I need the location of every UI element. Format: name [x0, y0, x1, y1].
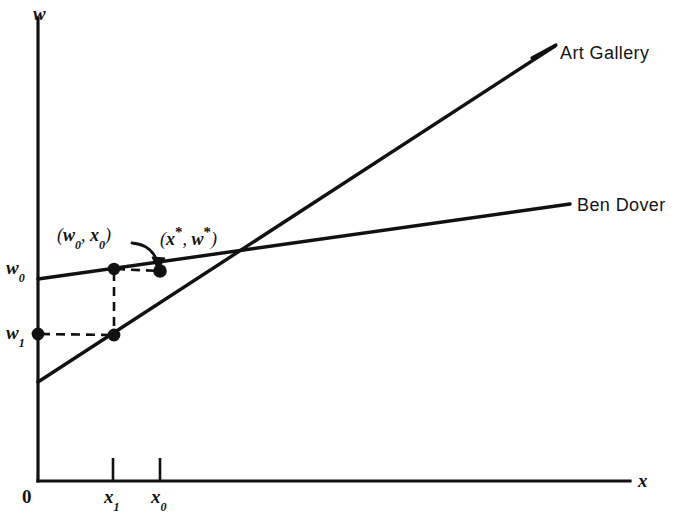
annotation-point-w0-x0: (w0, x0) — [57, 226, 111, 248]
x-axis-label: x — [638, 471, 648, 490]
dashed-guide-w1-horizontal — [41, 334, 112, 335]
y-tick-label-w1-sub: 1 — [19, 336, 25, 350]
x-tick-label-x0-sub: 0 — [161, 500, 167, 514]
annotation-b-star2: * — [204, 224, 212, 240]
chart-svg — [0, 0, 678, 528]
x-tick-label-x0: x0 — [151, 487, 167, 510]
y-tick-label-w0-sub: 0 — [19, 271, 25, 285]
annotation-a-sep: , — [81, 225, 90, 245]
point-dot-w1-axis — [32, 328, 45, 341]
paren-close-a: ) — [105, 225, 111, 245]
y-axis-label: w — [33, 4, 46, 23]
annotation-a-sub2: 0 — [99, 238, 105, 252]
annotation-point-xstar-wstar: (x*, w*) — [160, 226, 217, 248]
x-tick-label-x1: x1 — [104, 487, 120, 510]
figure-canvas: w x 0 w0 w1 x1 x0 (w0, x0) (x*, w*) Art … — [0, 0, 678, 528]
origin-label: 0 — [22, 487, 32, 506]
point-dot-xstar-wstar — [153, 264, 167, 278]
curve-label-ben-dover: Ben Dover — [577, 196, 666, 214]
paren-close-b: ) — [211, 229, 217, 249]
y-tick-label-w0-var: w — [6, 257, 19, 278]
annotation-b-star1: * — [175, 224, 183, 240]
x-tick-label-x0-var: x — [151, 486, 161, 507]
x-tick-label-x1-var: x — [104, 486, 114, 507]
annotation-a-sub1: 0 — [75, 238, 81, 252]
y-tick-label-w1: w1 — [6, 323, 25, 346]
annotation-a-var2: x — [90, 225, 99, 245]
leader-art-gallery — [532, 45, 556, 58]
x-tick-label-x1-sub: 1 — [114, 500, 120, 514]
y-tick-label-w0: w0 — [6, 258, 25, 281]
curve-label-art-gallery: Art Gallery — [560, 44, 649, 62]
annotation-a-var1: w — [63, 225, 75, 245]
point-dot-w1-x1 — [108, 329, 121, 342]
y-tick-label-w1-var: w — [6, 322, 19, 343]
annotation-b-var2: w — [192, 229, 204, 249]
annotation-b-var1: x — [166, 229, 175, 249]
annotation-b-sep: , — [183, 229, 192, 249]
point-dot-w0-x1 — [108, 263, 120, 275]
